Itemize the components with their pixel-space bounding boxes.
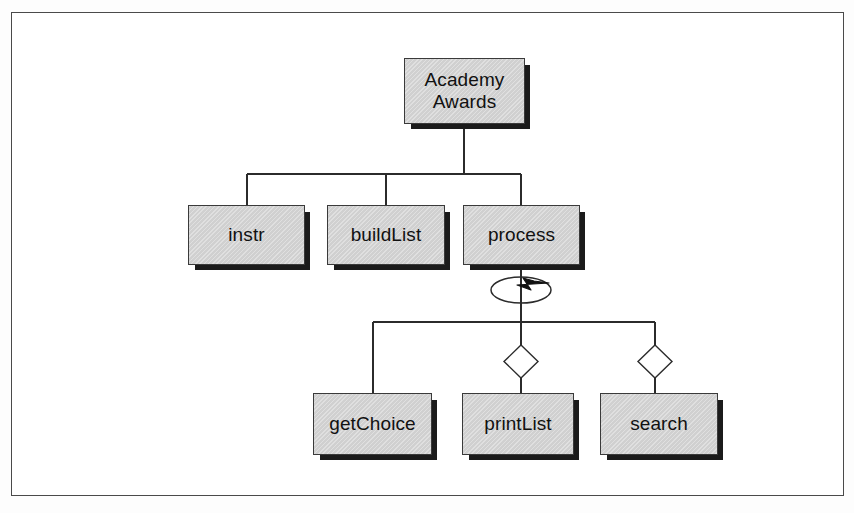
node-printlist[interactable]: printList: [462, 393, 574, 455]
node-instr[interactable]: instr: [188, 205, 305, 265]
node-buildlist[interactable]: buildList: [327, 205, 445, 265]
structure-chart-figure: Academy Awards instr buildList process g…: [0, 0, 854, 513]
selection-diamond-printlist: [504, 345, 538, 378]
node-label: getChoice: [325, 413, 419, 435]
node-search[interactable]: search: [600, 393, 718, 455]
node-academy-awards[interactable]: Academy Awards: [404, 58, 525, 124]
node-label: process: [484, 224, 559, 246]
node-label: Academy Awards: [421, 69, 509, 113]
selection-diamond-search: [638, 345, 672, 378]
connector-process-to-level2: [373, 265, 655, 393]
node-label: printList: [480, 413, 555, 435]
node-label: search: [626, 413, 692, 435]
connector-root-to-level1: [247, 124, 521, 205]
node-process[interactable]: process: [463, 205, 580, 265]
selection-diamond-icon: [638, 345, 672, 378]
node-label: buildList: [347, 224, 426, 246]
node-getchoice[interactable]: getChoice: [313, 393, 432, 455]
node-label: instr: [224, 224, 268, 246]
selection-diamond-icon: [504, 345, 538, 378]
loop-arrowhead-icon: [517, 278, 549, 290]
